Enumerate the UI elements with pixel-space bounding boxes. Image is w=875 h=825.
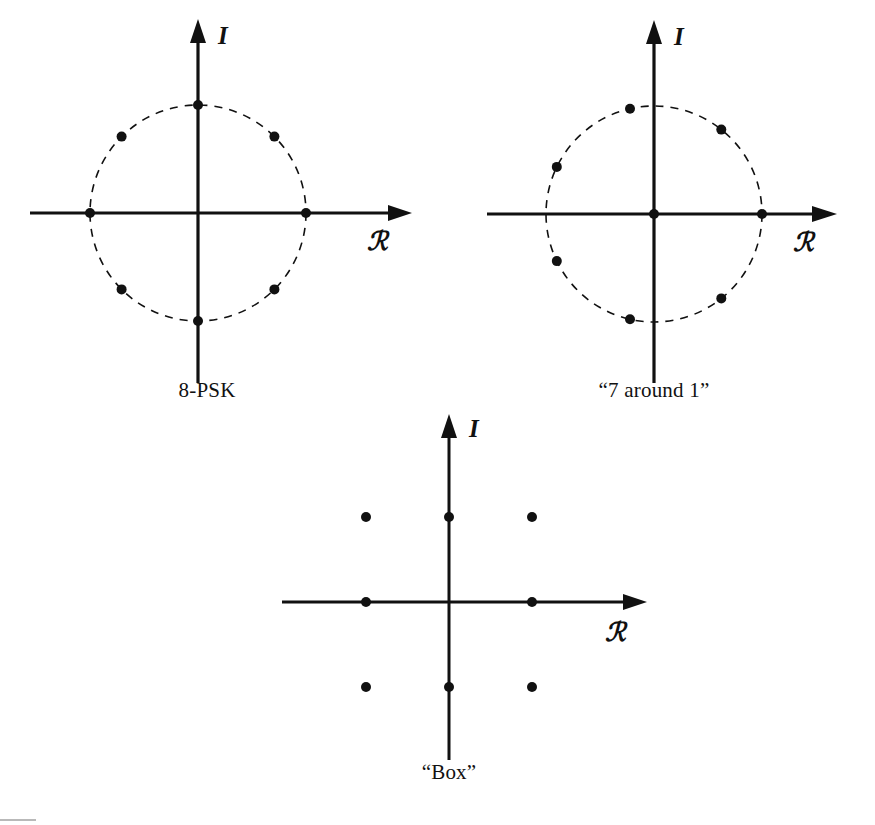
imaginary-axis-arrowhead — [441, 414, 457, 438]
constellation-point-origin — [649, 209, 659, 219]
constellation-point — [527, 682, 537, 692]
real-axis-arrowhead — [812, 206, 837, 222]
real-axis-arrowhead — [388, 205, 412, 221]
constellation-panel-8psk: I ℛ 8-PSK — [0, 0, 430, 400]
constellation-point — [444, 512, 454, 522]
constellation-point — [301, 208, 311, 218]
constellation-svg-8psk: I ℛ — [0, 0, 430, 400]
imaginary-axis-label-box: I — [468, 415, 480, 442]
constellation-point — [269, 284, 279, 294]
page-bottom-rule — [0, 819, 36, 821]
constellation-svg-7around1: I ℛ — [455, 0, 875, 400]
constellation-point — [527, 512, 537, 522]
constellation-point — [193, 100, 203, 110]
constellation-point — [716, 125, 726, 135]
axes-7around1 — [487, 20, 837, 383]
constellation-point — [444, 682, 454, 692]
real-axis-arrowhead — [623, 594, 647, 610]
constellation-point — [269, 132, 279, 142]
caption-7around1: “7 around 1” — [554, 378, 754, 403]
constellation-point — [117, 284, 127, 294]
real-axis-label-box: ℛ — [605, 618, 628, 647]
imaginary-axis-arrowhead — [646, 20, 662, 44]
constellation-point — [757, 209, 767, 219]
real-axis-label-8psk: ℛ — [367, 227, 390, 256]
constellation-point — [117, 132, 127, 142]
caption-box: “Box” — [349, 760, 549, 785]
constellation-point — [625, 314, 635, 324]
axes-8psk — [30, 19, 412, 383]
imaginary-axis-arrowhead — [190, 19, 206, 43]
constellation-point — [361, 597, 371, 607]
constellation-panel-box: I ℛ “Box” — [275, 405, 675, 805]
constellation-point — [361, 512, 371, 522]
imaginary-axis-label-8psk: I — [217, 22, 229, 49]
imaginary-axis-label-7around1: I — [673, 23, 685, 50]
figure-root: I ℛ 8-PSK I ℛ — [0, 0, 875, 825]
constellation-svg-box: I ℛ — [275, 405, 675, 805]
axes-box — [282, 414, 647, 760]
constellation-point — [625, 104, 635, 114]
constellation-point — [193, 316, 203, 326]
constellation-point — [716, 293, 726, 303]
constellation-panel-7around1: I ℛ “7 around 1” — [455, 0, 875, 400]
constellation-point — [85, 208, 95, 218]
constellation-point — [552, 256, 562, 266]
constellation-point — [527, 597, 537, 607]
real-axis-label-7around1: ℛ — [793, 228, 816, 257]
constellation-point — [361, 682, 371, 692]
constellation-point — [552, 162, 562, 172]
caption-8psk: 8-PSK — [107, 378, 307, 403]
